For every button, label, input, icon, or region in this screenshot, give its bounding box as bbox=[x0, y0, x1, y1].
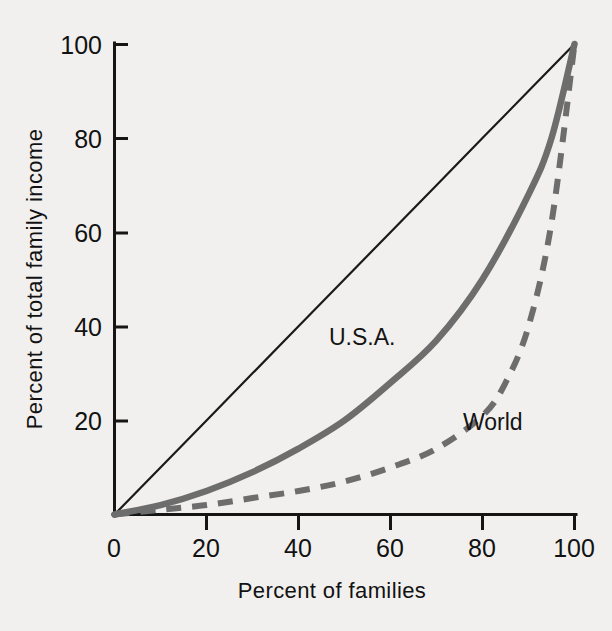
x-tick-label-20: 20 bbox=[192, 534, 220, 562]
y-tick-label-80: 80 bbox=[74, 125, 102, 153]
y-axis-title: Percent of total family income bbox=[22, 129, 47, 430]
y-tick-label-40: 40 bbox=[74, 313, 102, 341]
x-tick-label-100: 100 bbox=[553, 534, 595, 562]
usa-series-label: U.S.A. bbox=[329, 324, 395, 350]
x-axis-title: Percent of families bbox=[238, 578, 427, 603]
x-tick-label-0: 0 bbox=[107, 534, 121, 562]
lorenz-curve-chart: 100 80 60 40 20 0 20 40 60 80 100 U.S.A.… bbox=[0, 0, 612, 631]
x-tick-label-40: 40 bbox=[284, 534, 312, 562]
y-tick-label-20: 20 bbox=[74, 407, 102, 435]
chart-svg: 100 80 60 40 20 0 20 40 60 80 100 U.S.A.… bbox=[0, 0, 612, 631]
y-tick-label-60: 60 bbox=[74, 219, 102, 247]
world-series-label: World bbox=[463, 409, 523, 435]
y-tick-label-100: 100 bbox=[60, 31, 102, 59]
x-tick-label-60: 60 bbox=[376, 534, 404, 562]
x-tick-label-80: 80 bbox=[468, 534, 496, 562]
